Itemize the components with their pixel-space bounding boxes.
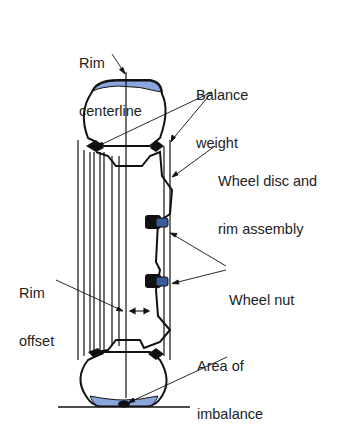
label-wheel-disc-rim-assembly: Wheel disc and rim assembly (218, 141, 317, 253)
label-area-of-imbalance: Area of imbalance (197, 326, 263, 433)
label-wheel-nut: Wheel nut (229, 260, 294, 324)
label-rim-offset: Rim offset (19, 253, 54, 365)
rim-offset-arrow (130, 309, 149, 314)
imbalance-weight (118, 401, 130, 408)
tire-bottom (80, 352, 166, 408)
rim-profile (96, 152, 172, 352)
label-rim-centerline: Rim centerline (79, 23, 142, 135)
